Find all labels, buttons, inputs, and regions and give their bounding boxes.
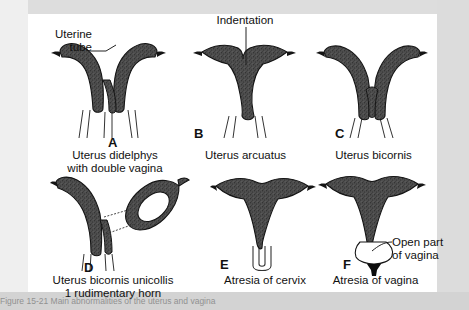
uterine-tube-label-line1: Uterine bbox=[30, 28, 92, 41]
panel-a-letter: A bbox=[108, 135, 117, 150]
panel-b-caption-line1: Uterus arcuatus bbox=[178, 149, 313, 162]
panel-d-letter: D bbox=[84, 260, 93, 275]
panel-f-caption-line1: Atresia of vagina bbox=[308, 274, 443, 287]
figure-panel: A Uterus didelphys with double vagina Ut… bbox=[28, 14, 437, 292]
panel-c-caption: Uterus bicornis bbox=[311, 149, 436, 162]
open-part-label-line2: of vagina bbox=[392, 249, 462, 262]
open-part-leader-line bbox=[364, 236, 396, 256]
panel-a-caption: Uterus didelphys with double vagina bbox=[40, 149, 190, 174]
uterus-bicornis-unicollis-diagram bbox=[50, 172, 190, 272]
panel-a-caption-line1: Uterus didelphys bbox=[40, 149, 190, 162]
panel-c-caption-line1: Uterus bicornis bbox=[311, 149, 436, 162]
panel-c-diagram bbox=[316, 30, 428, 140]
panel-b-caption: Uterus arcuatus bbox=[178, 149, 313, 162]
panel-e-letter: E bbox=[220, 257, 229, 272]
uterus-bicornis-diagram bbox=[316, 30, 428, 140]
indentation-annotation: Indentation bbox=[185, 14, 305, 27]
figure-root: A Uterus didelphys with double vagina Ut… bbox=[0, 0, 469, 310]
panel-b-letter: B bbox=[194, 126, 203, 141]
panel-d-caption-line1: Uterus bicornis unicollis bbox=[28, 274, 198, 287]
left-margin bbox=[0, 0, 28, 310]
panel-f-letter: F bbox=[343, 257, 351, 272]
top-margin bbox=[28, 0, 437, 14]
uterine-tube-annotation: Uterine tube bbox=[30, 28, 92, 53]
panel-f-caption: Atresia of vagina bbox=[308, 274, 443, 287]
open-part-of-vagina-annotation: Open part of vagina bbox=[392, 236, 462, 261]
panel-c-letter: C bbox=[335, 126, 344, 141]
panel-d-diagram bbox=[50, 172, 190, 272]
right-margin bbox=[437, 0, 469, 310]
uterine-tube-label-line2: tube bbox=[30, 41, 92, 54]
figure-source-caption: Figure 15-21 Main abnormalities of the u… bbox=[0, 296, 469, 310]
uterine-tube-leader-line bbox=[90, 42, 120, 58]
open-part-label-line1: Open part bbox=[392, 236, 462, 249]
indentation-leader-line bbox=[244, 27, 248, 67]
